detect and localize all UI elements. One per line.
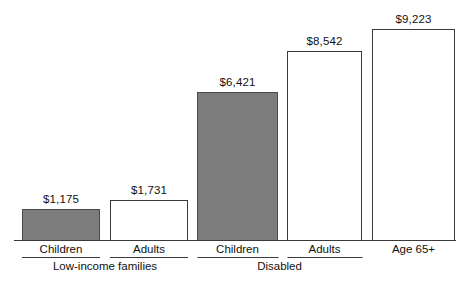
- bar-value-label-age-65-plus: $9,223: [372, 13, 455, 26]
- category-label-disabled-children: Children: [197, 242, 278, 257]
- group-label-low-income-families: Low-income families: [22, 259, 188, 274]
- group-label-disabled: Disabled: [197, 259, 362, 274]
- category-label-lowincome-adults: Adults: [110, 242, 188, 257]
- group-label-row: Low-income families Disabled: [0, 259, 467, 277]
- bar-chart-figure: $1,175 $1,731 $6,421 $8,542 $9,223 Child…: [0, 0, 467, 281]
- bar-value-label-disabled-children: $6,421: [197, 76, 278, 89]
- bar-disabled-adults: [287, 51, 362, 241]
- axis-baseline: [14, 240, 456, 241]
- bar-lowincome-adults: [110, 200, 188, 241]
- bar-disabled-children: [197, 92, 278, 241]
- bar-value-label-lowincome-children: $1,175: [22, 193, 100, 206]
- bar-age-65-plus: [372, 29, 455, 241]
- bar-value-label-disabled-adults: $8,542: [287, 35, 362, 48]
- plot-area: $1,175 $1,731 $6,421 $8,542 $9,223: [0, 0, 467, 241]
- bar-value-label-lowincome-adults: $1,731: [110, 184, 188, 197]
- bar-lowincome-children: [22, 209, 100, 241]
- category-label-row: Children Adults Children Adults Age 65+: [0, 242, 467, 260]
- category-label-disabled-adults: Adults: [287, 242, 362, 257]
- category-label-age-65-plus: Age 65+: [372, 242, 455, 257]
- category-label-lowincome-children: Children: [22, 242, 100, 257]
